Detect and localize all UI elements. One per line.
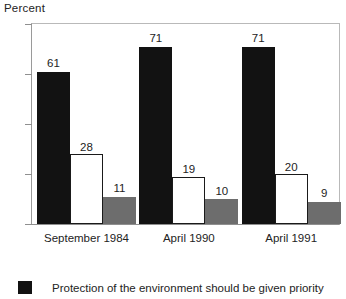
bars-layer: 61281171191071209 <box>32 24 339 224</box>
bar-value-label: 9 <box>321 188 327 200</box>
bar: 9 <box>308 202 341 225</box>
bar: 11 <box>103 197 136 225</box>
bar-value-label: 11 <box>114 183 126 195</box>
x-axis-category-label: April 1991 <box>265 232 317 244</box>
chart-axis-title: Percent <box>4 2 45 14</box>
legend-swatch-black <box>18 281 32 294</box>
bar-value-label: 61 <box>47 58 60 70</box>
bar: 19 <box>172 177 205 225</box>
bar: 71 <box>242 47 275 225</box>
bar: 28 <box>70 154 103 224</box>
bar: 10 <box>205 199 238 224</box>
bar-group: 71209 <box>237 24 339 224</box>
x-axis: September 1984April 1990April 1991 <box>32 232 339 250</box>
legend-entry: Protection of the environment should be … <box>18 281 324 294</box>
x-axis-category-label: September 1984 <box>44 232 129 244</box>
x-axis-category-label: April 1990 <box>163 232 215 244</box>
legend-label: Protection of the environment should be … <box>52 282 324 294</box>
bar: 20 <box>275 174 308 224</box>
bar-value-label: 28 <box>80 142 93 154</box>
bar-value-label: 71 <box>149 33 162 45</box>
bar-value-label: 19 <box>182 164 195 176</box>
bar-group: 612811 <box>32 24 134 224</box>
bar: 71 <box>139 47 172 225</box>
chart-legend: Protection of the environment should be … <box>18 281 346 299</box>
bar: 61 <box>37 72 70 225</box>
bar-value-label: 20 <box>285 162 298 174</box>
bar-value-label: 71 <box>252 33 265 45</box>
bar-value-label: 10 <box>215 186 228 198</box>
bar-group: 711910 <box>134 24 236 224</box>
